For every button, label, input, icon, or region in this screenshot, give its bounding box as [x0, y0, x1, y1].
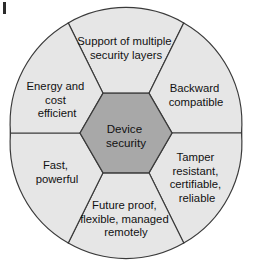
device-security-diagram: Device security Support of multiple secu… — [0, 0, 255, 264]
core-label: Device security — [106, 122, 146, 149]
label-support-of-multiple-security-layers: Support of multiple security layers — [77, 35, 174, 61]
wheel-diagram-canvas: Device security Support of multiple secu… — [0, 0, 255, 264]
scan-edge-mark-icon — [3, 2, 6, 14]
label-backward-compatible: Backward compatible — [169, 82, 224, 108]
